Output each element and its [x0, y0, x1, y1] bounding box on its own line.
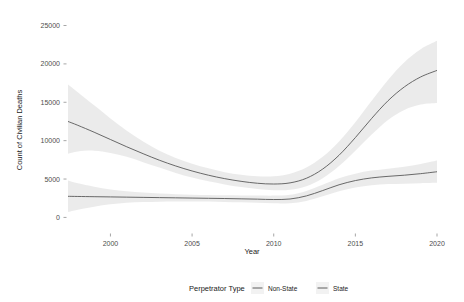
chart-container: 0500010000150002000025000 20002005201020… [0, 0, 464, 302]
x-tick-label: 2000 [103, 240, 119, 247]
y-axis-title: Count of Civilian Deaths [15, 90, 24, 171]
y-tick-label: 20000 [41, 60, 61, 67]
legend-item-non-state[interactable]: Non-State [268, 285, 298, 292]
x-tick-label: 2010 [266, 240, 282, 247]
legend-title: Perpetrator Type [189, 284, 245, 293]
x-axis-title: Year [244, 247, 260, 256]
x-tick-label: 2015 [348, 240, 364, 247]
y-tick-label: 5000 [44, 176, 60, 183]
y-tick-label: 25000 [41, 22, 61, 29]
x-tick-label: 2020 [429, 240, 445, 247]
legend-item-state[interactable]: State [333, 285, 349, 292]
y-tick-label: 15000 [41, 99, 61, 106]
x-tick-label: 2005 [184, 240, 200, 247]
y-tick-label: 10000 [41, 137, 61, 144]
scatter-smooth-plot: 0500010000150002000025000 20002005201020… [0, 0, 464, 302]
y-tick-label: 0 [56, 214, 60, 221]
